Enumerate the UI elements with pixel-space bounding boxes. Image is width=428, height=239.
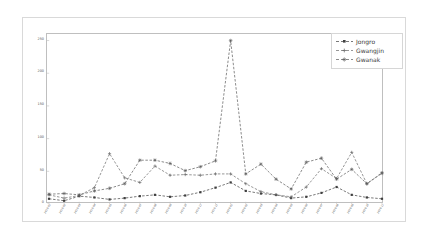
legend-marker-jongro xyxy=(336,38,353,45)
x-tick-label: 2020-04 xyxy=(272,204,280,215)
x-tick-label: 2020-08 xyxy=(332,204,340,215)
data-point-marker xyxy=(123,182,127,186)
data-point-marker xyxy=(230,181,232,183)
legend-item-gwangjin[interactable]: Gwangjin xyxy=(336,46,398,55)
data-point-marker xyxy=(199,174,202,177)
data-point-marker xyxy=(320,167,323,170)
data-point-marker xyxy=(124,197,126,199)
x-tick-label: 2020-05 xyxy=(287,204,295,215)
x-tick-label: 2019-04 xyxy=(90,204,98,215)
data-point-marker xyxy=(184,194,186,196)
chart-legend: Jongro Gwangjin Gwanak xyxy=(331,33,403,69)
data-point-marker xyxy=(350,151,353,154)
data-point-marker xyxy=(63,197,66,200)
data-point-marker xyxy=(381,198,383,200)
x-tick-label: 2019-02 xyxy=(60,204,68,215)
data-point-marker xyxy=(320,192,322,194)
x-tick-label: 2019-11 xyxy=(196,204,204,215)
data-point-marker xyxy=(77,193,81,197)
x-tick-label: 2019-07 xyxy=(135,204,143,215)
data-point-marker xyxy=(245,190,247,192)
data-point-marker xyxy=(138,181,141,184)
data-point-marker xyxy=(108,152,111,155)
data-point-marker xyxy=(153,164,156,167)
x-tick-label: 2020-03 xyxy=(256,204,264,215)
data-point-marker xyxy=(62,192,66,196)
data-point-marker xyxy=(305,196,307,198)
x-axis-tick-labels: 2019-012019-022019-032019-042019-052019-… xyxy=(46,204,383,220)
data-point-marker xyxy=(350,168,354,172)
data-point-marker xyxy=(154,194,156,196)
chart-figure: 050100150200250 2019-012019-022019-03201… xyxy=(0,0,428,239)
data-point-marker xyxy=(93,196,95,198)
data-point-marker xyxy=(93,186,96,189)
x-tick-label: 2020-10 xyxy=(362,204,370,215)
legend-label-gwanak: Gwanak xyxy=(356,56,380,63)
data-point-marker xyxy=(214,172,217,175)
x-tick-label: 2020-01 xyxy=(226,204,234,215)
y-tick-label: 200 xyxy=(30,70,44,73)
data-point-marker xyxy=(139,195,141,197)
y-axis-tick-labels: 050100150200250 xyxy=(28,33,44,203)
x-tick-label: 2020-09 xyxy=(347,204,355,215)
y-tick-label: 250 xyxy=(30,38,44,41)
data-point-marker xyxy=(229,39,233,43)
data-point-marker xyxy=(380,171,384,175)
data-point-marker xyxy=(366,196,368,198)
x-tick-label: 2020-07 xyxy=(317,204,325,215)
data-point-marker xyxy=(168,162,172,166)
data-point-marker xyxy=(63,200,65,202)
data-point-marker xyxy=(93,189,97,193)
legend-item-gwanak[interactable]: Gwanak xyxy=(336,55,398,64)
data-point-marker xyxy=(335,186,337,188)
series-line-jongro xyxy=(49,182,382,200)
legend-item-jongro[interactable]: Jongro xyxy=(336,37,398,46)
data-point-marker xyxy=(199,191,201,193)
y-tick-label: 150 xyxy=(30,103,44,106)
data-point-marker xyxy=(244,172,248,176)
data-point-marker xyxy=(289,187,293,191)
data-point-marker xyxy=(48,198,50,200)
data-point-marker xyxy=(320,156,324,160)
x-tick-label: 2019-06 xyxy=(120,204,128,215)
data-point-marker xyxy=(153,158,157,162)
x-tick-label: 2019-12 xyxy=(211,204,219,215)
x-tick-label: 2019-05 xyxy=(105,204,113,215)
data-point-marker xyxy=(183,169,187,173)
data-point-marker xyxy=(305,160,309,164)
x-tick-label: 2020-02 xyxy=(241,204,249,215)
data-point-marker xyxy=(184,173,187,176)
y-tick-label: 100 xyxy=(30,136,44,139)
y-tick-label: 0 xyxy=(30,201,44,204)
data-point-marker xyxy=(168,174,171,177)
legend-label-gwangjin: Gwangjin xyxy=(356,47,384,54)
data-point-marker xyxy=(47,192,51,196)
x-tick-label: 2019-03 xyxy=(75,204,83,215)
data-point-marker xyxy=(138,158,142,162)
data-point-marker xyxy=(214,159,218,163)
data-point-marker xyxy=(274,177,278,181)
data-point-marker xyxy=(108,187,112,191)
data-point-marker xyxy=(214,187,216,189)
x-tick-label: 2019-09 xyxy=(166,204,174,215)
legend-label-jongro: Jongro xyxy=(356,38,375,45)
data-point-marker xyxy=(169,196,171,198)
data-point-marker xyxy=(199,165,203,169)
legend-marker-gwangjin xyxy=(336,47,353,54)
legend-marker-gwanak xyxy=(336,56,353,63)
x-tick-label: 2019-10 xyxy=(181,204,189,215)
data-point-marker xyxy=(335,177,339,181)
data-point-marker xyxy=(123,176,126,179)
data-point-marker xyxy=(259,162,263,166)
x-tick-label: 2019-08 xyxy=(151,204,159,215)
x-tick-label: 2020-06 xyxy=(302,204,310,215)
data-point-marker xyxy=(108,198,110,200)
x-tick-label: 2019-01 xyxy=(45,204,53,215)
data-point-marker xyxy=(259,190,262,193)
data-point-marker xyxy=(274,193,277,196)
data-point-marker xyxy=(351,194,353,196)
data-point-marker xyxy=(365,182,369,186)
y-tick-label: 50 xyxy=(30,169,44,172)
